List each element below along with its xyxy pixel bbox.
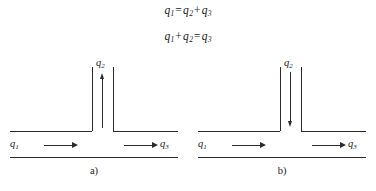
branch-wall-left <box>280 67 281 131</box>
inlet-flow-arrow-shaft <box>232 145 262 146</box>
label-inlet-q1-sub: 1 <box>15 143 19 151</box>
label-outlet-q3-sub: 3 <box>165 143 169 151</box>
outlet-flow-arrow-shaft <box>124 145 154 146</box>
branch-flow-arrow-head-up-icon <box>100 73 104 79</box>
outlet-flow-arrow-shaft <box>312 145 342 146</box>
outlet-flow-arrow-head-icon <box>152 142 158 148</box>
branch-flow-arrow-shaft <box>102 78 103 128</box>
inlet-flow-arrow-head-icon <box>72 142 78 148</box>
label-inlet-q1: q1 <box>198 138 207 149</box>
pipe-top-wall-right <box>301 131 366 132</box>
branch-wall-right <box>113 67 114 131</box>
pipe-top-wall-left <box>10 131 92 132</box>
label-inlet-q1: q1 <box>10 138 19 149</box>
inlet-flow-arrow-shaft <box>44 145 74 146</box>
pipe-diagram-a: q1 q3 q2 a) <box>0 0 188 191</box>
pipe-bottom-wall <box>10 157 178 158</box>
branch-flow-arrow-head-down-icon <box>288 121 292 127</box>
label-outlet-q3-sub: 3 <box>353 143 357 151</box>
branch-wall-right <box>301 67 302 131</box>
label-outlet-q3: q3 <box>160 138 169 149</box>
pipe-top-wall-left <box>198 131 280 132</box>
caption-b: b) <box>188 165 376 176</box>
branch-wall-left <box>92 67 93 131</box>
caption-a: a) <box>0 165 188 176</box>
label-branch-q2-sub: 2 <box>101 62 105 70</box>
pipe-bottom-wall <box>198 157 366 158</box>
inlet-flow-arrow-head-icon <box>260 142 266 148</box>
figure-canvas: q1=q2+q3 q1+q2=q3 q1 q3 q2 a) <box>0 0 376 191</box>
pipe-diagram-b: q1 q3 q2 b) <box>188 0 376 191</box>
branch-flow-arrow-shaft <box>290 72 291 122</box>
label-inlet-q1-sub: 1 <box>203 143 207 151</box>
label-branch-q2: q2 <box>284 57 293 68</box>
label-branch-q2-sub: 2 <box>289 62 293 70</box>
label-outlet-q3: q3 <box>348 138 357 149</box>
outlet-flow-arrow-head-icon <box>340 142 346 148</box>
pipe-top-wall-right <box>113 131 178 132</box>
label-branch-q2: q2 <box>96 57 105 68</box>
